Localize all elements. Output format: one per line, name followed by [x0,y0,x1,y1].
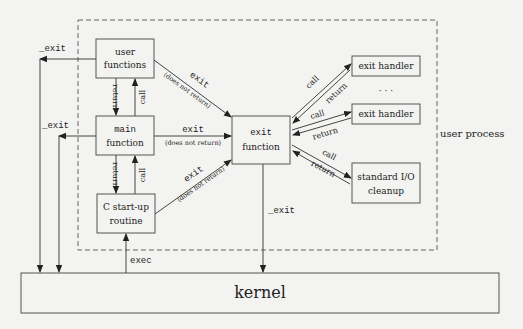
user-functions-line1: user [115,47,136,57]
edge-label-exit-kernel: _exit [267,206,295,216]
edge-label-dnr-main: (does not return) [165,139,222,147]
edge-label-call-1: call [138,89,147,104]
edge-label-exec: exec [130,256,152,266]
exit-handler-1-label: exit handler [359,61,415,71]
edge-label-call-stdio: call [321,147,338,162]
exit-handler-2-label: exit handler [359,109,415,119]
exit-function-line1: exit [250,128,272,138]
exit-flow-diagram: user process kernel user functions main … [0,0,523,329]
user-process-label: user process [440,128,504,139]
main-function-box [96,116,154,155]
main-function-line2: function [106,138,144,148]
user-functions-box [96,39,154,78]
edge-label-return-2: return [111,162,120,188]
edge-label-exit-main: _exit [41,121,69,131]
stdio-cleanup-line2: cleanup [368,186,404,196]
edge-label-exit-from-main: exit [182,125,204,135]
exit-function-line2: function [242,142,280,152]
edge-label-call-h2: call [309,108,326,121]
stdio-cleanup-line1: standard I/O [357,172,414,182]
main-function-line1: main [114,125,136,135]
c-startup-line2: routine [109,216,142,226]
kernel-label: kernel [234,283,286,302]
edge-label-exit-user: _exit [38,44,66,54]
c-startup-line1: C start-up [103,202,149,212]
edge-label-call-2: call [138,167,147,182]
ellipsis: · · · [379,86,393,96]
edge-label-return-1: return [111,84,120,110]
edge-label-return-h1: return [324,81,349,105]
stdio-cleanup-box [352,163,420,203]
edge-label-call-h1: call [304,74,321,91]
edge-label-return-stdio: return [310,159,337,179]
exit-function-box [232,116,290,164]
c-startup-box [97,194,155,233]
user-functions-line2: functions [104,60,147,70]
